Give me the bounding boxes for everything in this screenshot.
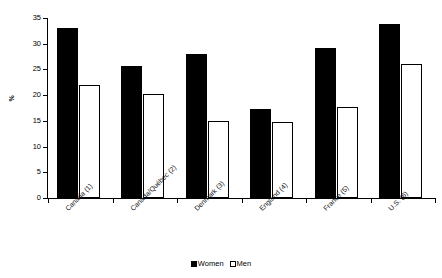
y-axis-title: %	[8, 95, 15, 101]
bar-group	[57, 18, 100, 198]
bar-women	[121, 66, 142, 198]
bar-men	[337, 107, 358, 198]
y-axis-tick-label: 10	[19, 143, 41, 151]
legend-item: Men	[230, 259, 252, 268]
legend-label: Women	[198, 259, 224, 268]
bar-women	[379, 24, 400, 198]
bar-group	[121, 18, 164, 198]
legend-item: Women	[191, 259, 224, 268]
bar-men	[79, 85, 100, 198]
y-axis-tick-label: 5	[19, 168, 41, 176]
plot-area	[48, 18, 435, 198]
y-axis-tick-label: 0	[19, 194, 41, 202]
x-axis-tick	[113, 198, 114, 203]
bar-women	[315, 48, 336, 198]
x-axis-tick	[48, 198, 49, 203]
bar-group	[315, 18, 358, 198]
bar-men	[401, 64, 422, 198]
legend-swatch-icon	[230, 261, 236, 267]
bar-chart: % 05101520253035 Canada (1)Canada/Québec…	[0, 0, 442, 278]
bar-group	[379, 18, 422, 198]
chart-legend: WomenMen	[0, 259, 442, 268]
bar-group	[250, 18, 293, 198]
y-axis-tick-label: 25	[19, 65, 41, 73]
y-axis-tick-label: 20	[19, 91, 41, 99]
y-axis-tick-label: 30	[19, 40, 41, 48]
x-axis-tick	[306, 198, 307, 203]
x-axis-tick	[177, 198, 178, 203]
bar-women	[250, 109, 271, 198]
x-axis-tick	[242, 198, 243, 203]
bar-group	[186, 18, 229, 198]
legend-swatch-icon	[191, 261, 197, 267]
x-axis-tick	[371, 198, 372, 203]
x-axis-tick	[435, 198, 436, 203]
bar-women	[186, 54, 207, 198]
bar-women	[57, 28, 78, 198]
y-axis-tick-label: 15	[19, 117, 41, 125]
legend-label: Men	[237, 259, 252, 268]
y-axis-tick-label: 35	[19, 14, 41, 22]
